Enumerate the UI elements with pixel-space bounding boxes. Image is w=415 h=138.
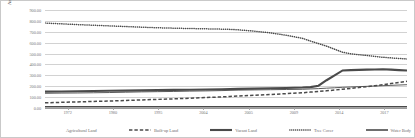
x-axis-tick-labels: 19721980199520042005200920142017 [45,110,407,119]
legend-label-tree-cover: Tree Cover [314,128,333,133]
legend-label-water-body: Water Body [391,128,411,133]
legend-item-built-up-land[interactable]: Built-up Land [129,128,178,133]
plot-area [45,10,407,108]
legend-item-vacant-land[interactable]: Vacant Land [210,128,257,133]
legend-swatch-built-up-land [129,128,151,132]
y-tick-label: 100.00 [29,95,41,100]
chart-container: Area in sq. km 0.00100.00200.00300.00400… [0,0,415,138]
x-tick-label: 2009 [290,110,298,115]
x-axis-line [45,108,407,109]
legend-item-agricultural-land[interactable]: Agricultural Land [41,128,97,133]
y-tick-label: 400.00 [29,62,41,67]
y-tick-label: 900.00 [29,8,41,13]
y-tick-label: 800.00 [29,18,41,23]
legend-swatch-water-body [366,128,388,132]
y-tick-label: 300.00 [29,73,41,78]
legend-item-tree-cover[interactable]: Tree Cover [289,128,333,133]
series-line-built-up-land [45,81,407,102]
y-tick-label: 500.00 [29,51,41,56]
y-tick-label: 0.00 [34,106,41,111]
legend-label-built-up-land: Built-up Land [154,128,178,133]
x-tick-mark [294,108,295,110]
series-layer [45,10,407,108]
x-tick-mark [339,108,340,110]
y-tick-label: 200.00 [29,84,41,89]
legend-item-water-body[interactable]: Water Body [366,128,411,133]
legend-swatch-tree-cover [289,128,311,132]
legend-swatch-vacant-land [210,128,232,132]
x-tick-label: 1972 [63,110,71,115]
x-tick-mark [113,108,114,110]
y-axis-tick-labels: 0.00100.00200.00300.00400.00500.00600.00… [1,10,43,108]
x-tick-mark [249,108,250,110]
legend-label-vacant-land: Vacant Land [235,128,257,133]
series-line-tree-cover [45,23,407,59]
x-tick-mark [68,108,69,110]
x-tick-label: 1980 [109,110,117,115]
x-tick-label: 2004 [199,110,207,115]
x-tick-label: 2005 [244,110,252,115]
y-tick-label: 600.00 [29,40,41,45]
x-tick-label: 1995 [154,110,162,115]
x-tick-mark [203,108,204,110]
x-tick-mark [158,108,159,110]
x-tick-mark [384,108,385,110]
y-tick-label: 700.00 [29,29,41,34]
legend-label-agricultural-land: Agricultural Land [66,128,97,133]
chart-legend: Agricultural LandBuilt-up LandVacant Lan… [41,125,411,135]
x-tick-label: 2014 [335,110,343,115]
x-tick-label: 2017 [380,110,388,115]
legend-swatch-agricultural-land [41,128,63,132]
